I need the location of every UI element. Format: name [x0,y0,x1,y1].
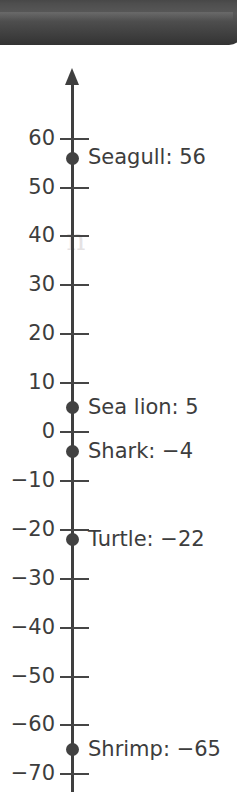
data-point-dot [66,445,79,458]
axis-tick-label: 0 [0,421,55,442]
axis-tick [60,529,89,531]
axis-tick [60,382,89,384]
axis-tick [60,138,89,140]
axis-tick-label: 60 [0,128,55,149]
data-point-dot [66,743,79,756]
data-point-dot [66,533,79,546]
axis-tick [60,235,89,237]
data-point-dot [66,152,79,165]
axis-tick [60,773,89,775]
axis-tick [60,676,89,678]
axis-tick [60,187,89,189]
axis-tick [60,333,89,335]
axis-tick [60,431,89,433]
data-point-label: Shrimp: −65 [88,739,221,760]
axis-tick-label: 10 [0,372,55,393]
axis-tick [60,578,89,580]
axis-tick-label: −60 [0,714,55,735]
data-point-label: Seagull: 56 [88,147,206,168]
data-point-label: Sea lion: 5 [88,397,199,418]
axis-tick [60,627,89,629]
axis-tick-label: 40 [0,225,55,246]
axis-tick-label: −10 [0,470,55,491]
data-point-label: Turtle: −22 [88,529,205,550]
number-line-chart: n 6050403020100−10−20−30−40−50−60−70 Sea… [0,0,237,792]
axis-tick-label: 50 [0,177,55,198]
axis-tick-label: 20 [0,323,55,344]
axis-tick-label: −20 [0,519,55,540]
axis-tick-label: −40 [0,617,55,638]
data-point-dot [66,401,79,414]
axis-tick-label: −30 [0,568,55,589]
vertical-axis [71,78,74,792]
axis-tick [60,284,89,286]
axis-tick-label: −70 [0,763,55,784]
axis-tick-label: −50 [0,666,55,687]
data-point-label: Shark: −4 [88,441,193,462]
axis-tick [60,480,89,482]
watermark-ghost: n [56,222,96,258]
axis-tick [60,724,89,726]
axis-tick-label: 30 [0,274,55,295]
